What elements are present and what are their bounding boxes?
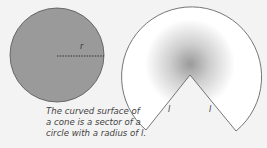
slant-label-left: l <box>168 105 171 114</box>
slant-label-right: l <box>209 105 212 114</box>
caption-line: a cone is a sector of a <box>46 117 156 128</box>
caption-line: circle with a radius of l. <box>46 128 156 139</box>
caption-line: The curved surface of <box>46 106 156 117</box>
caption: The curved surface of a cone is a sector… <box>46 106 156 139</box>
base-circle <box>10 8 104 102</box>
